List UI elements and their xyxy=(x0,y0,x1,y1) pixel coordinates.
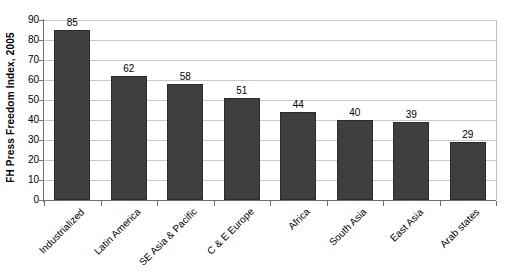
x-tick-mark xyxy=(44,201,45,206)
x-tick-mark xyxy=(157,201,158,206)
x-axis-category-labels: IndustrializedLatin AmericaSE Asia & Pac… xyxy=(0,206,507,278)
y-tick-label: 60 xyxy=(18,75,39,85)
bar-value-label: 39 xyxy=(381,109,441,120)
x-tick-mark xyxy=(101,201,102,206)
y-tick-label: 10 xyxy=(18,175,39,185)
x-category-label: Arab states xyxy=(438,206,482,250)
gridline xyxy=(44,40,496,41)
bar xyxy=(337,120,373,200)
y-tick-mark xyxy=(39,100,44,101)
bar-value-label: 40 xyxy=(325,107,385,118)
y-tick-label: 80 xyxy=(18,35,39,45)
bar-value-label: 58 xyxy=(155,71,215,82)
x-tick-mark xyxy=(496,201,497,206)
y-tick-label: 20 xyxy=(18,155,39,165)
x-category-label: Latin America xyxy=(92,206,143,257)
gridline xyxy=(44,60,496,61)
x-category-label: East Asia xyxy=(388,206,425,243)
x-category-label: Africa xyxy=(286,206,312,232)
y-tick-mark xyxy=(39,160,44,161)
y-axis-title-text: FH Press Freedom Index, 2005 xyxy=(5,32,16,183)
bar xyxy=(280,112,316,200)
x-tick-mark xyxy=(270,201,271,206)
bar-value-label: 85 xyxy=(42,17,102,28)
y-tick-mark xyxy=(39,60,44,61)
y-axis-title: FH Press Freedom Index, 2005 xyxy=(0,0,20,215)
gridline xyxy=(44,20,496,21)
x-tick-mark xyxy=(440,201,441,206)
y-tick-mark xyxy=(39,80,44,81)
bar-value-label: 29 xyxy=(438,129,498,140)
y-tick-label: 30 xyxy=(18,135,39,145)
x-tick-mark xyxy=(327,201,328,206)
x-tick-mark xyxy=(214,201,215,206)
x-category-label: C & E Europe xyxy=(205,206,256,257)
y-tick-label: 90 xyxy=(18,15,39,25)
x-category-label: SE Asia & Pacific xyxy=(137,206,199,268)
x-tick-mark xyxy=(383,201,384,206)
y-tick-label: 50 xyxy=(18,95,39,105)
bar xyxy=(224,98,260,200)
y-tick-label: 0 xyxy=(18,195,39,205)
bar-value-label: 44 xyxy=(268,99,328,110)
bar-value-label: 62 xyxy=(99,63,159,74)
x-category-label: South Asia xyxy=(327,206,369,248)
bar xyxy=(167,84,203,200)
bar xyxy=(450,142,486,200)
bar-chart: FH Press Freedom Index, 2005 90807060504… xyxy=(0,0,507,278)
bar xyxy=(111,76,147,200)
bar xyxy=(393,122,429,200)
y-axis-tick-labels: 9080706050403020100 xyxy=(18,20,39,200)
bar-value-label: 51 xyxy=(212,85,272,96)
y-tick-mark xyxy=(39,20,44,21)
y-tick-mark xyxy=(39,40,44,41)
y-tick-mark xyxy=(39,120,44,121)
y-tick-label: 70 xyxy=(18,55,39,65)
plot-area: 8562585144403929 xyxy=(44,20,497,200)
y-tick-label: 40 xyxy=(18,115,39,125)
y-tick-mark xyxy=(39,140,44,141)
x-category-label: Industrialized xyxy=(37,206,86,255)
bar xyxy=(54,30,90,200)
y-tick-mark xyxy=(39,180,44,181)
